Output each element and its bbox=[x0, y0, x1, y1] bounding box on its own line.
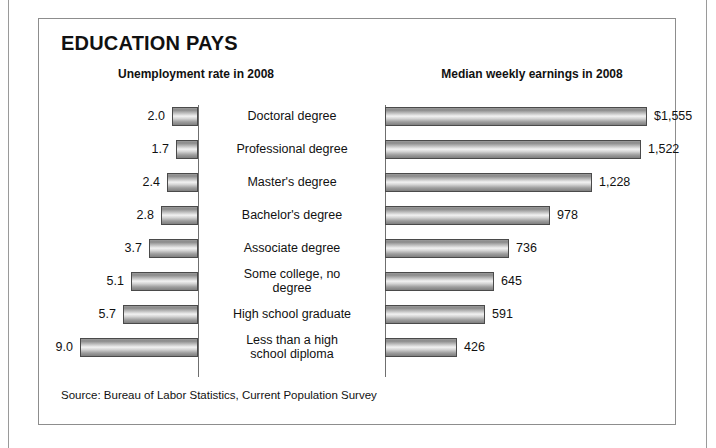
earnings-bar bbox=[385, 338, 457, 357]
earnings-value-label: $1,555 bbox=[654, 107, 692, 126]
category-label: Less than a highschool diploma bbox=[202, 333, 382, 361]
page-rule-left bbox=[8, 0, 9, 448]
earnings-value-label: 1,228 bbox=[599, 173, 630, 192]
chart-row: 2.4Master's degree1,228 bbox=[39, 172, 675, 205]
earnings-value-label: 591 bbox=[492, 305, 513, 324]
chart-row: 5.1Some college, nodegree645 bbox=[39, 271, 675, 304]
unemployment-bar bbox=[167, 173, 198, 192]
unemployment-bar bbox=[149, 239, 198, 258]
earnings-value-label: 978 bbox=[557, 206, 578, 225]
category-label: Professional degree bbox=[202, 142, 382, 156]
earnings-bar bbox=[385, 272, 494, 291]
category-label: Associate degree bbox=[202, 241, 382, 255]
earnings-bar bbox=[385, 140, 641, 159]
unemployment-bar bbox=[80, 338, 198, 357]
source-note: Source: Bureau of Labor Statistics, Curr… bbox=[61, 389, 377, 401]
unemployment-value-label: 5.1 bbox=[91, 272, 124, 291]
figure-frame: EDUCATION PAYS Unemployment rate in 2008… bbox=[38, 18, 676, 425]
chart-row: 1.7Professional degree1,522 bbox=[39, 139, 675, 172]
unemployment-value-label: 5.7 bbox=[83, 305, 116, 324]
unemployment-bar bbox=[161, 206, 198, 225]
category-label: Some college, nodegree bbox=[202, 267, 382, 295]
earnings-value-label: 645 bbox=[501, 272, 522, 291]
unemployment-value-label: 3.7 bbox=[109, 239, 142, 258]
category-label: High school graduate bbox=[202, 307, 382, 321]
chart-plot-area: 2.0Doctoral degree$1,5551.7Professional … bbox=[39, 19, 675, 424]
category-label: Doctoral degree bbox=[202, 109, 382, 123]
unemployment-bar bbox=[176, 140, 198, 159]
earnings-bar bbox=[385, 173, 592, 192]
chart-row: 9.0Less than a highschool diploma426 bbox=[39, 337, 675, 370]
earnings-bar bbox=[385, 107, 647, 126]
earnings-bar bbox=[385, 206, 550, 225]
category-label: Bachelor's degree bbox=[202, 208, 382, 222]
unemployment-bar bbox=[131, 272, 198, 291]
unemployment-value-label: 2.0 bbox=[132, 107, 165, 126]
category-label: Master's degree bbox=[202, 175, 382, 189]
earnings-value-label: 1,522 bbox=[648, 140, 679, 159]
earnings-value-label: 736 bbox=[516, 239, 537, 258]
unemployment-value-label: 2.8 bbox=[121, 206, 154, 225]
chart-row: 2.8Bachelor's degree978 bbox=[39, 205, 675, 238]
earnings-value-label: 426 bbox=[464, 338, 485, 357]
chart-row: 2.0Doctoral degree$1,555 bbox=[39, 106, 675, 139]
unemployment-bar bbox=[172, 107, 198, 126]
unemployment-value-label: 9.0 bbox=[40, 338, 73, 357]
unemployment-value-label: 1.7 bbox=[136, 140, 169, 159]
earnings-bar bbox=[385, 305, 485, 324]
unemployment-bar bbox=[123, 305, 198, 324]
earnings-bar bbox=[385, 239, 509, 258]
unemployment-value-label: 2.4 bbox=[127, 173, 160, 192]
page-rule-right bbox=[706, 0, 707, 448]
